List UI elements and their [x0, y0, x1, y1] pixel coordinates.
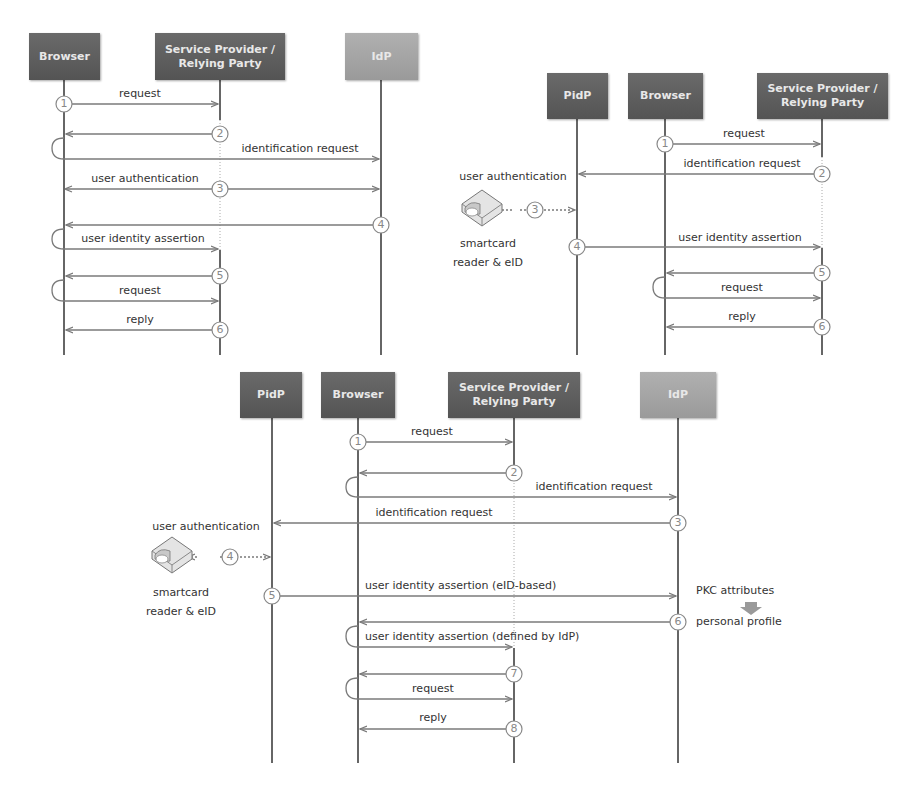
- message-label: reply: [126, 313, 154, 326]
- actor-label: IdP: [371, 50, 391, 64]
- actor-label: Service Provider / Relying Party: [161, 43, 279, 71]
- message-label: reply: [728, 310, 756, 323]
- actor-browser: Browser: [29, 33, 100, 80]
- step-number: 2: [819, 167, 826, 180]
- step-number: 5: [819, 266, 826, 279]
- message-label: user authentication: [459, 170, 566, 183]
- step-number: 2: [511, 466, 518, 479]
- step-number: 1: [355, 435, 362, 448]
- actor-browser: Browser: [628, 73, 703, 119]
- step-number: 6: [819, 320, 826, 333]
- message-label: user authentication: [91, 172, 198, 185]
- step-number: 1: [61, 97, 68, 110]
- step-number: 4: [227, 550, 234, 563]
- message-label: user identity assertion: [81, 232, 205, 245]
- actor-label: PidP: [564, 89, 592, 103]
- actor-pidp: PidP: [240, 372, 302, 418]
- message-label: user identity assertion (defined by IdP): [365, 630, 579, 643]
- step-number: 4: [378, 218, 385, 231]
- step-number: 8: [511, 722, 518, 735]
- message-label: user identity assertion (eID-based): [365, 579, 556, 592]
- actor-service-provider: Service Provider / Relying Party: [448, 372, 580, 418]
- actor-label: IdP: [668, 388, 688, 402]
- message-label: identification request: [241, 142, 358, 155]
- note-personal-profile: personal profile: [696, 615, 782, 628]
- actor-label: Browser: [640, 89, 691, 103]
- step-number: 1: [662, 137, 669, 150]
- step-number: 5: [217, 269, 224, 282]
- message-label: user identity assertion: [678, 231, 802, 244]
- actor-service-provider: Service Provider / Relying Party: [155, 33, 285, 80]
- message-label: request: [721, 281, 763, 294]
- actor-label: Service Provider / Relying Party: [454, 381, 574, 409]
- figure-canvas: 1 2 3 4 5 6 1 2 3 4 5 6 1 2 3 4 5 6 7 8 …: [0, 0, 915, 788]
- message-label: request: [119, 284, 161, 297]
- actor-label: PidP: [257, 388, 285, 402]
- step-number: 4: [574, 240, 581, 253]
- actor-idp: IdP: [345, 33, 418, 80]
- message-label: identification request: [683, 157, 800, 170]
- actor-pidp: PidP: [547, 73, 608, 119]
- step-number: 5: [269, 589, 276, 602]
- actor-label: Browser: [333, 388, 384, 402]
- step-number: 6: [217, 323, 224, 336]
- step-number: 7: [511, 667, 518, 680]
- step-number: 3: [532, 203, 539, 216]
- device-label: reader & eID: [453, 256, 523, 269]
- note-pkc-attributes: PKC attributes: [696, 584, 774, 597]
- actor-service-provider: Service Provider / Relying Party: [757, 73, 888, 119]
- device-label: smartcard: [153, 586, 209, 599]
- step-number: 3: [217, 182, 224, 195]
- message-label: identification request: [535, 480, 652, 493]
- actor-label: Service Provider / Relying Party: [763, 82, 882, 110]
- actor-idp: IdP: [640, 372, 716, 418]
- message-label: request: [723, 127, 765, 140]
- message-label: reply: [419, 711, 447, 724]
- step-number: 2: [217, 127, 224, 140]
- message-label: user authentication: [152, 520, 259, 533]
- device-label: smartcard: [460, 237, 516, 250]
- message-label: request: [412, 682, 454, 695]
- actor-browser: Browser: [321, 372, 395, 418]
- message-label: request: [411, 425, 453, 438]
- message-label: identification request: [375, 506, 492, 519]
- message-label: request: [119, 87, 161, 100]
- device-label: reader & eID: [146, 605, 216, 618]
- step-number: 6: [675, 615, 682, 628]
- actor-label: Browser: [39, 50, 90, 64]
- step-number: 3: [675, 516, 682, 529]
